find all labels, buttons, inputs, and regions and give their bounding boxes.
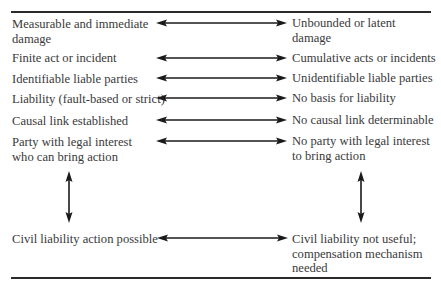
left-condition-6: Party with legal interest who can bring … [12, 135, 152, 164]
left-condition-5: Causal link established [12, 114, 152, 129]
double-arrow-icon [156, 115, 287, 125]
vertical-double-arrow-icon [356, 171, 366, 223]
right-condition-1: Unbounded or latent damage [292, 16, 437, 45]
top-rule [11, 11, 431, 13]
double-arrow-icon [156, 18, 287, 28]
bottom-rule [11, 277, 431, 279]
double-arrow-icon [156, 53, 287, 63]
vertical-double-arrow-icon [64, 171, 74, 223]
double-arrow-icon [157, 233, 288, 243]
left-condition-3: Identifiable liable parties [12, 72, 152, 87]
right-condition-2: Cumulative acts or incidents [292, 51, 437, 66]
left-condition-1: Measurable and immediate damage [12, 17, 152, 46]
left-condition-2: Finite act or incident [12, 51, 152, 66]
right-condition-3: Unidentifiable liable parties [292, 71, 437, 86]
right-condition-4: No basis for liability [292, 91, 437, 106]
left-outcome: Civil liability action possible [12, 232, 158, 247]
right-outcome: Civil liability not useful; compensation… [292, 232, 424, 276]
left-condition-4: Liability (fault-based or strict) [12, 92, 158, 107]
right-condition-6: No party with legal interest to bring ac… [292, 134, 437, 163]
double-arrow-icon [156, 93, 287, 103]
double-arrow-icon [156, 73, 287, 83]
right-condition-5: No causal link determinable [292, 113, 437, 128]
double-arrow-icon [156, 136, 287, 146]
